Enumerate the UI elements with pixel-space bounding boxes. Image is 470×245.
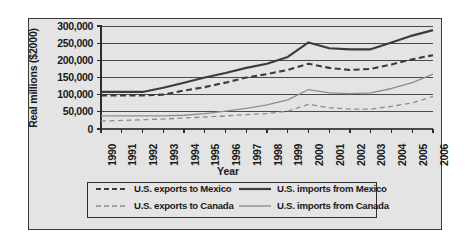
x-tick-label: 1994 [189, 144, 201, 166]
y-tick-label: 150,000 [31, 71, 93, 83]
legend-item-exports-mexico: U.S. exports to Mexico [95, 183, 231, 194]
x-axis-label: Year [217, 165, 239, 177]
chart-figure: Real millions ($2000) Year U.S. exports … [28, 18, 442, 230]
y-tick-label: 300,000 [31, 20, 93, 32]
x-tick-label: 2001 [334, 144, 346, 166]
legend-item-imports-canada: U.S. imports from Canada [238, 200, 389, 211]
x-tick-label: 2004 [396, 144, 408, 166]
y-tick-label: 50,000 [31, 105, 93, 117]
legend-label-imports-mexico: U.S. imports from Mexico [277, 183, 387, 194]
x-tick-label: 1996 [230, 144, 242, 166]
x-tick-label: 2005 [417, 144, 429, 166]
x-tick-label: 1993 [168, 144, 180, 166]
legend-label-imports-canada: U.S. imports from Canada [277, 200, 389, 211]
y-tick-label: 0 [31, 123, 93, 135]
x-tick-label: 2003 [375, 144, 387, 166]
y-tick-label: 250,000 [31, 37, 93, 49]
y-tick-label: 100,000 [31, 88, 93, 100]
y-tick-label: 200,000 [31, 54, 93, 66]
legend-label-exports-mexico: U.S. exports to Mexico [134, 183, 231, 194]
x-tick-label: 1990 [106, 144, 118, 166]
x-tick-label: 1998 [272, 144, 284, 166]
legend-label-exports-canada: U.S. exports to Canada [134, 200, 234, 211]
x-tick-label: 1992 [147, 144, 159, 166]
legend-swatch-exports-mexico [95, 184, 129, 194]
legend-swatch-exports-canada [95, 201, 129, 211]
x-tick-label: 1999 [292, 144, 304, 166]
x-tick-label: 2000 [313, 144, 325, 166]
legend-swatch-imports-mexico [238, 184, 272, 194]
x-tick-label: 2006 [438, 144, 450, 166]
x-tick-label: 1995 [209, 144, 221, 166]
legend-swatch-imports-canada [238, 201, 272, 211]
x-tick-label: 2002 [355, 144, 367, 166]
chart-legend: U.S. exports to Mexico U.S. imports from… [87, 182, 377, 218]
x-tick-label: 1997 [251, 144, 263, 166]
legend-item-exports-canada: U.S. exports to Canada [95, 200, 234, 211]
legend-item-imports-mexico: U.S. imports from Mexico [238, 183, 387, 194]
x-tick-label: 1991 [126, 144, 138, 166]
